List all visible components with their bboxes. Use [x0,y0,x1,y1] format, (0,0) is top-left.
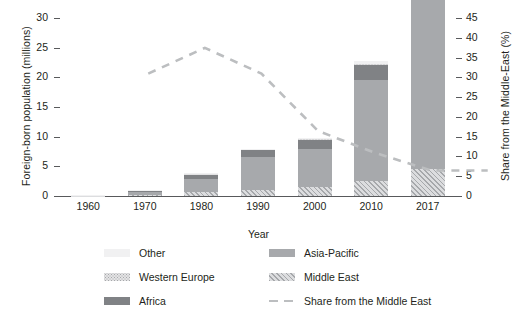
bar-segment [411,0,445,169]
x-axis-tick-label: 2017 [398,200,458,212]
bar-stack [241,18,275,196]
bar-segment [354,181,388,196]
y-axis-right-tick [456,176,462,177]
legend-label: Africa [139,295,166,307]
bar-segment [128,191,162,192]
legend-item[interactable]: Africa [104,293,166,309]
legend-item[interactable]: Middle East [269,269,359,285]
y-axis-right-tick-label: 5 [466,169,506,181]
legend-swatch-other [104,249,130,257]
bar-segment [184,179,218,192]
y-axis-right-tick [456,137,462,138]
y-axis-right-tick [456,77,462,78]
bar-segment [298,138,332,139]
y-axis-left-tick-label: 20 [8,70,48,82]
bar-stack [128,18,162,196]
y-axis-left-tick-label: 25 [8,41,48,53]
y-axis-right-tick-label: 10 [466,149,506,161]
y-axis-right-tick [456,196,462,197]
bar-segment [411,169,445,196]
legend-label: Asia-Pacific [304,247,359,259]
x-axis-tick-label: 2010 [341,200,401,212]
bar-stack [411,18,445,196]
y-axis-right-tick-label: 40 [466,31,506,43]
bar-segment [241,150,275,157]
bar-segment [184,192,218,196]
bar-segment [298,140,332,149]
x-axis-tick-label: 1990 [228,200,288,212]
bar-segment [128,192,162,195]
x-axis-tick-label: 1980 [171,200,231,212]
bar-segment [241,157,275,190]
legend-swatch-middleeast [269,273,295,281]
y-axis-right-tick-label: 0 [466,189,506,201]
bar-stack [298,18,332,196]
y-axis-left-tick-label: 15 [8,100,48,112]
chart-figure: Foreign-born population (millions) Share… [0,0,517,325]
y-axis-right-tick [456,117,462,118]
bar-segment [71,195,105,196]
bar-segment [298,149,332,187]
bar-segment [241,149,275,150]
legend-label: Share from the Middle East [304,295,431,307]
bar-stack [71,18,105,196]
legend-swatch-westerneurope [104,273,130,281]
y-axis-left-tick-label: 10 [8,130,48,142]
y-axis-right-tick-label: 45 [466,11,506,23]
legend-label: Middle East [304,271,359,283]
bar-segment [241,149,275,150]
legend-swatch-asiapacific [269,249,295,257]
y-axis-right-tick [456,58,462,59]
x-axis-tick-label: 1960 [58,200,118,212]
legend-label: Other [139,247,165,259]
y-axis-right-tick [456,18,462,19]
y-axis-right-tick-label: 25 [466,90,506,102]
y-axis-left-tick-label: 0 [8,189,48,201]
y-axis-right-tick [456,156,462,157]
legend-dashed-line-icon [269,297,295,305]
legend: OtherAsia-PacificWestern EuropeMiddle Ea… [104,245,504,317]
x-axis-line [60,196,456,197]
y-axis-right-tick [456,38,462,39]
legend-swatch-africa [104,297,130,305]
legend-item[interactable]: Other [104,245,165,261]
bar-segment [184,174,218,179]
y-axis-left-tick-label: 5 [8,159,48,171]
x-axis-tick-label: 2000 [285,200,345,212]
y-axis-right-tick [456,97,462,98]
legend-item[interactable]: Western Europe [104,269,215,285]
legend-item[interactable]: Share from the Middle East [269,293,431,309]
y-axis-right-tick-label: 15 [466,130,506,142]
plot-area [60,18,456,196]
legend-item[interactable]: Asia-Pacific [269,245,359,261]
bar-segment [354,64,388,65]
x-axis-tick-label: 1970 [115,200,175,212]
bar-stack [354,18,388,196]
bar-stack [184,18,218,196]
legend-label: Western Europe [139,271,215,283]
x-axis-title: Year [0,228,517,240]
y-axis-right-tick-label: 20 [466,110,506,122]
bar-segment [241,190,275,196]
y-axis-right-tick-label: 30 [466,70,506,82]
bar-segment [298,187,332,196]
bar-segment [298,139,332,140]
bar-segment [354,61,388,64]
y-axis-left-tick-label: 30 [8,11,48,23]
y-axis-right-tick-label: 35 [466,51,506,63]
bar-segment [354,65,388,80]
bar-segment [128,195,162,196]
bar-segment [354,80,388,181]
